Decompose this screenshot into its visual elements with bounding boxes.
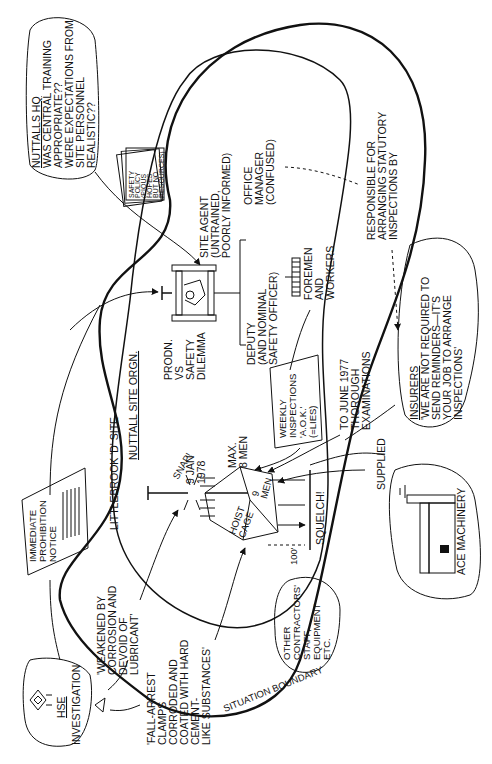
svg-text:LIKE SUBSTANCES': LIKE SUBSTANCES': [200, 647, 212, 745]
site-agent-label: SITE AGENT (UNTRAINED, POORLY INFORMED): [198, 153, 232, 258]
office-manager-label: OFFICE MANAGER (CONFUSED): [242, 139, 276, 205]
svg-text:RESOURCES): RESOURCES): [158, 151, 166, 198]
svg-text:INSPECTIONS': INSPECTIONS': [452, 347, 464, 420]
site-org-title: NUTTALL SITE ORGN.: [127, 351, 139, 460]
supplied-label: SUPPLIED: [375, 438, 387, 490]
svg-text:MEN: MEN: [258, 476, 274, 499]
safety-policy-document: SAFETY POLICY (PIOUS HOPES BUT NO RESOUR…: [117, 148, 166, 206]
situation-boundary-label: SITUATION BOUNDARY: [222, 664, 325, 714]
max-label: MAX. 8 MEN: [226, 436, 249, 468]
squelch-label: SQUELCH!: [314, 491, 326, 545]
svg-text:NUTTALL SITE ORGN.: NUTTALL SITE ORGN.: [127, 351, 139, 460]
thorough-exams-label: TO JUNE 1977 THOROUGH EXAMINATIONS: [338, 351, 372, 430]
responsible-label: RESPONSIBLE FOR ARRANGING STATUTORY INSP…: [365, 112, 399, 240]
hse-logo-icon: [30, 690, 52, 710]
svg-text:LUBRICANT': LUBRICANT': [128, 613, 140, 675]
svg-text:EXAMINATIONS: EXAMINATIONS: [360, 351, 372, 430]
clamps-quote: 'FALL-ARREST CLAMPS CORRODED AND COATED …: [145, 639, 212, 745]
svg-text:SAFETY OFFICER): SAFETY OFFICER): [267, 272, 279, 365]
svg-text:100': 100': [288, 547, 299, 565]
svg-text:8 MEN: 8 MEN: [237, 436, 249, 468]
weekly-inspections-text: WEEKLY INSPECTIONS 'A.O.K.' (=LIES): [277, 374, 318, 438]
svg-text:(=LIES): (=LIES): [307, 406, 318, 438]
svg-text:SQUELCH!: SQUELCH!: [314, 491, 326, 545]
dilemma-label: PRODN. VS SAFETY DILEMMA: [162, 332, 207, 380]
hse-subtitle: INVESTIGATION: [70, 665, 82, 745]
svg-text:LITTLEBROOK 'D' SITE: LITTLEBROOK 'D' SITE: [108, 417, 120, 530]
svg-text:SUPPLIED: SUPPLIED: [375, 438, 387, 490]
ace-machinery-label: ACE MACHINERY: [455, 488, 467, 575]
workers-icon: [285, 258, 300, 296]
svg-text:NOTICE: NOTICE: [47, 526, 58, 562]
eye-icon: [95, 698, 105, 712]
nuttalls-hq-text: NUTTALLS HQ WAS CENTRAL TRAINING APPROPR…: [30, 20, 97, 168]
crane-icon: [400, 485, 455, 573]
svg-text:WORKERS: WORKERS: [324, 246, 336, 300]
site-title: LITTLEBROOK 'D' SITE: [108, 417, 120, 530]
svg-text:HSE: HSE: [55, 696, 67, 718]
svg-text:(CONFUSED): (CONFUSED): [264, 139, 276, 205]
prohibition-notice-text: IMMEDIATE PROHIBITION NOTICE: [27, 500, 58, 562]
insurers-text: INSURERS 'WE ARE NOT REQUIRED TO SEND RE…: [408, 277, 464, 420]
rich-picture-diagram: SITUATION BOUNDARY NUTTALLS HQ WAS CENTR…: [0, 0, 492, 764]
other-contractors-text: OTHER CONTRACTORS' STAFF, EQUIPMENT ETC.: [281, 585, 332, 660]
svg-text:REALISTIC??: REALISTIC??: [85, 102, 97, 168]
svg-text:INVESTIGATION: INVESTIGATION: [70, 665, 82, 745]
svg-text:INSPECTIONS BY: INSPECTIONS BY: [387, 152, 399, 240]
svg-text:DILEMMA: DILEMMA: [195, 332, 207, 380]
foremen-label: FOREMEN AND WORKERS: [302, 246, 336, 300]
svg-text:ACE MACHINERY: ACE MACHINERY: [455, 488, 467, 575]
hse-title: HSE: [55, 696, 67, 718]
svg-text:POORLY INFORMED): POORLY INFORMED): [220, 153, 232, 258]
weakened-quote: 'WEAKENED BY CORROSION AND DEVOID OF LUB…: [95, 585, 140, 675]
svg-text:ETC.: ETC.: [321, 638, 332, 660]
svg-text:1978: 1978: [195, 460, 207, 484]
deputy-label: DEPUTY (AND NOMINAL SAFETY OFFICER): [245, 272, 279, 365]
height-label: 100': [288, 547, 299, 565]
